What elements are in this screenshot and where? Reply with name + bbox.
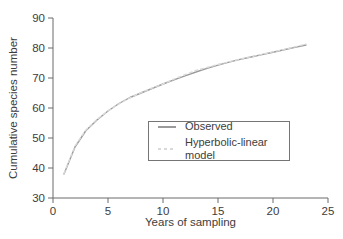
observed-line-sample-icon bbox=[158, 126, 176, 128]
species-accumulation-chart: 304050607080900510152025 Cumulative spec… bbox=[0, 0, 343, 239]
y-tick-label: 90 bbox=[32, 12, 45, 24]
legend-item-model: Hyperbolic-linear model bbox=[158, 136, 289, 162]
legend-label-model: Hyperbolic-linear model bbox=[185, 136, 289, 162]
y-tick-label: 50 bbox=[32, 132, 45, 144]
y-tick-label: 40 bbox=[32, 162, 45, 174]
y-tick-label: 60 bbox=[32, 102, 45, 114]
x-axis-label: Years of sampling bbox=[53, 216, 328, 228]
y-tick-label: 30 bbox=[32, 192, 45, 204]
y-axis-label: Cumulative species number bbox=[7, 37, 19, 179]
y-tick-label: 80 bbox=[32, 42, 45, 54]
model-line-sample-icon bbox=[158, 148, 176, 150]
legend: Observed Hyperbolic-linear model bbox=[148, 121, 290, 161]
y-tick-label: 70 bbox=[32, 72, 45, 84]
legend-label-observed: Observed bbox=[185, 120, 233, 133]
legend-item-observed: Observed bbox=[158, 120, 289, 133]
